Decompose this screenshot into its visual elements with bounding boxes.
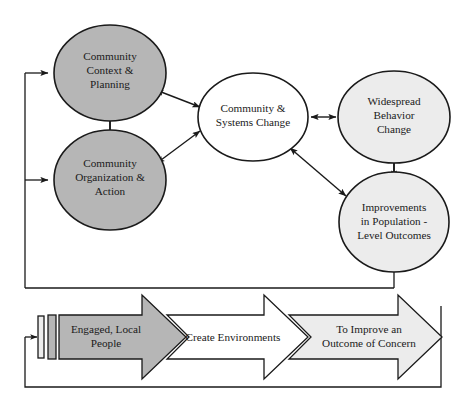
engaged-local-people-label-line2: People [91, 337, 121, 349]
engaged-local-people-label-line1: Engaged, Local [71, 323, 141, 335]
to-improve-outcome-label-line1: To Improve an [336, 323, 402, 335]
arrow-organization-to-systems [157, 131, 200, 163]
node-community-organization-action[interactable]: Community Organization & Action [54, 130, 166, 230]
diagram-canvas: Community Context & Planning Community O… [0, 0, 470, 410]
process-source-bar-2 [48, 315, 56, 359]
widespread-behavior-change-label-line2: Behavior [373, 109, 414, 121]
community-context-planning-label-line3: Planning [90, 78, 130, 90]
widespread-behavior-change-label-line3: Change [377, 123, 411, 135]
to-improve-outcome-label-line2: Outcome of Concern [322, 337, 416, 349]
community-change-framework-diagram: Community Context & Planning Community O… [0, 0, 470, 410]
community-systems-change-label-line1: Community & [221, 102, 286, 114]
node-improvements-population-level-outcomes[interactable]: Improvements in Population - Level Outco… [339, 172, 449, 272]
create-environments-label-line1: Create Environments [186, 331, 281, 343]
node-community-systems-change[interactable]: Community & Systems Change [198, 73, 308, 161]
community-context-planning-label-line1: Community [83, 50, 137, 62]
community-organization-action-label-line3: Action [95, 185, 126, 197]
improvements-outcomes-label-line3: Level Outcomes [357, 229, 431, 241]
process-arrow-to-improve-outcome[interactable]: To Improve an Outcome of Concern [289, 295, 442, 379]
improvements-outcomes-label-line1: Improvements [362, 201, 427, 213]
community-context-planning-label-line2: Context & [87, 64, 134, 76]
engaged-local-people-chevron[interactable] [59, 295, 186, 379]
process-source-bar-1 [38, 316, 44, 358]
node-community-context-planning[interactable]: Community Context & Planning [54, 25, 166, 121]
process-source-bars [38, 315, 56, 359]
arrow-context-to-systems [156, 90, 200, 107]
widespread-behavior-change-label-line1: Widespread [368, 95, 421, 107]
node-widespread-behavior-change[interactable]: Widespread Behavior Change [338, 71, 450, 163]
community-organization-action-label-line1: Community [83, 157, 137, 169]
arrow-systems-to-improvements [290, 148, 346, 196]
community-organization-action-label-line2: Organization & [75, 171, 145, 183]
improvements-outcomes-label-line2: in Population - [361, 215, 428, 227]
community-systems-change-label-line2: Systems Change [216, 116, 290, 128]
process-arrow-create-environments[interactable]: Create Environments [167, 295, 308, 379]
process-arrow-engaged-local-people[interactable]: Engaged, Local People [59, 295, 186, 379]
